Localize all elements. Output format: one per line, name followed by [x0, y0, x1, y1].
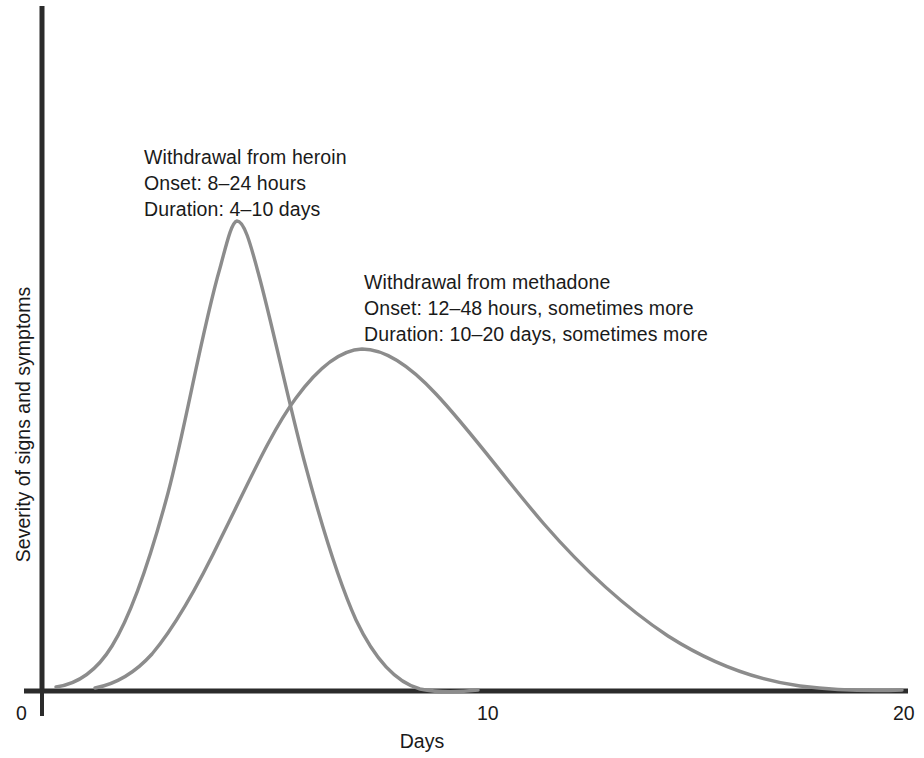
x-axis-title: Days	[0, 730, 924, 753]
annotation-methadone-title: Withdrawal from methadone	[364, 269, 708, 295]
curve-withdrawal-methadone	[95, 349, 902, 691]
withdrawal-severity-chart: Withdrawal from heroin Onset: 8–24 hours…	[0, 0, 924, 758]
chart-plot-area	[0, 0, 924, 758]
annotation-heroin-title: Withdrawal from heroin	[144, 144, 347, 170]
x-axis-tick-label-10: 10	[477, 702, 499, 724]
annotation-heroin-onset: Onset: 8–24 hours	[144, 170, 347, 196]
annotation-methadone-onset: Onset: 12–48 hours, sometimes more	[364, 295, 708, 321]
x-axis-title-text: Days	[400, 730, 444, 753]
annotation-heroin: Withdrawal from heroin Onset: 8–24 hours…	[144, 144, 347, 222]
annotation-methadone: Withdrawal from methadone Onset: 12–48 h…	[364, 269, 708, 347]
y-axis-title: Severity of signs and symptoms	[12, 260, 35, 590]
annotation-heroin-duration: Duration: 4–10 days	[144, 196, 347, 222]
axis-group	[24, 6, 908, 716]
annotation-methadone-duration: Duration: 10–20 days, sometimes more	[364, 321, 708, 347]
x-axis-tick-label-20: 20	[893, 702, 915, 724]
x-axis-tick-label-0: 0	[16, 702, 27, 724]
